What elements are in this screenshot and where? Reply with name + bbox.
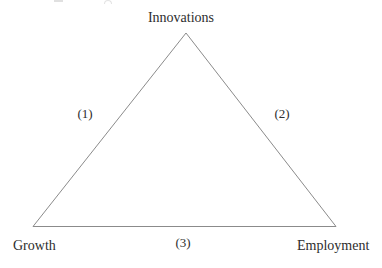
node-label-innovations: Innovations bbox=[131, 10, 231, 26]
node-label-growth: Growth bbox=[13, 238, 56, 254]
edge-line-innovations-employment bbox=[186, 33, 336, 227]
edge-line-growth-innovations bbox=[33, 33, 186, 227]
triangle-diagram bbox=[0, 0, 382, 268]
edge-label-3: (3) bbox=[168, 235, 198, 251]
node-label-employment: Employment bbox=[297, 238, 369, 254]
edge-label-1: (1) bbox=[70, 106, 100, 122]
edge-label-2: (2) bbox=[267, 106, 297, 122]
diagram-canvas: Innovations Growth Employment (1) (2) (3… bbox=[0, 0, 382, 268]
